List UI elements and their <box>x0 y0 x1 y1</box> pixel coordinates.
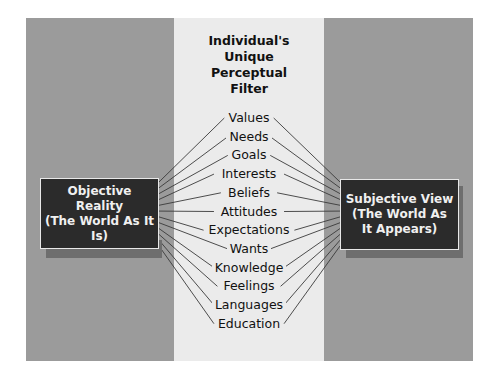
filter-item-label: Wants <box>227 241 272 256</box>
filter-item-label: Knowledge <box>212 260 287 275</box>
filter-item: Feelings <box>174 278 324 294</box>
filter-item: Expectations <box>174 222 324 238</box>
objective-reality-box: Objective Reality (The World As It Is) <box>40 178 159 249</box>
filter-item: Goals <box>174 147 324 163</box>
filter-item-label: Education <box>215 316 283 331</box>
filter-item-label: Feelings <box>220 278 277 293</box>
filter-item: Education <box>174 316 324 332</box>
filter-item-label: Attitudes <box>218 204 281 219</box>
subjective-view-label: Subjective View (The World As It Appears… <box>346 192 454 237</box>
filter-item-label: Goals <box>229 147 270 162</box>
filter-item-label: Expectations <box>206 222 293 237</box>
filter-item: Attitudes <box>174 204 324 220</box>
filter-item-label: Interests <box>219 166 280 181</box>
filter-item: Beliefs <box>174 185 324 201</box>
subjective-view-box: Subjective View (The World As It Appears… <box>340 179 459 250</box>
filter-item-label: Beliefs <box>225 185 273 200</box>
filter-item-label: Values <box>226 110 273 125</box>
filter-item-label: Needs <box>226 129 271 144</box>
filter-item: Needs <box>174 129 324 145</box>
filter-item: Knowledge <box>174 260 324 276</box>
filter-item: Languages <box>174 297 324 313</box>
filter-item: Interests <box>174 166 324 182</box>
filter-item: Values <box>174 110 324 126</box>
objective-reality-label: Objective Reality (The World As It Is) <box>41 184 158 244</box>
filter-item: Wants <box>174 241 324 257</box>
filter-item-label: Languages <box>212 297 286 312</box>
